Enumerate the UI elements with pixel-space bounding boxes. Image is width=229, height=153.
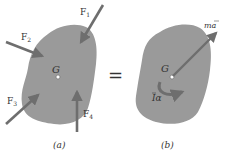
force-label-f4: F4	[83, 109, 93, 120]
free-body-diagram: G F1 F2 F3 F4 (a) = G ma Iα (b)	[0, 0, 229, 153]
force-label-f2: F2	[21, 32, 31, 43]
panel-b: G ma Iα (b)	[136, 21, 219, 150]
force-label-f3: F3	[7, 96, 17, 107]
center-of-mass-dot-a	[56, 75, 60, 79]
panel-a: G F1 F2 F3 F4 (a)	[6, 5, 103, 150]
angular-acceleration-label: Iα	[151, 93, 162, 103]
caption-a: (a)	[53, 140, 66, 150]
center-of-mass-label-b: G	[161, 63, 169, 74]
center-of-mass-label-a: G	[52, 64, 60, 75]
equals-sign: =	[108, 65, 123, 86]
linear-acceleration-label: ma	[204, 21, 217, 30]
caption-b: (b)	[161, 140, 174, 150]
force-label-f1: F1	[80, 7, 90, 18]
